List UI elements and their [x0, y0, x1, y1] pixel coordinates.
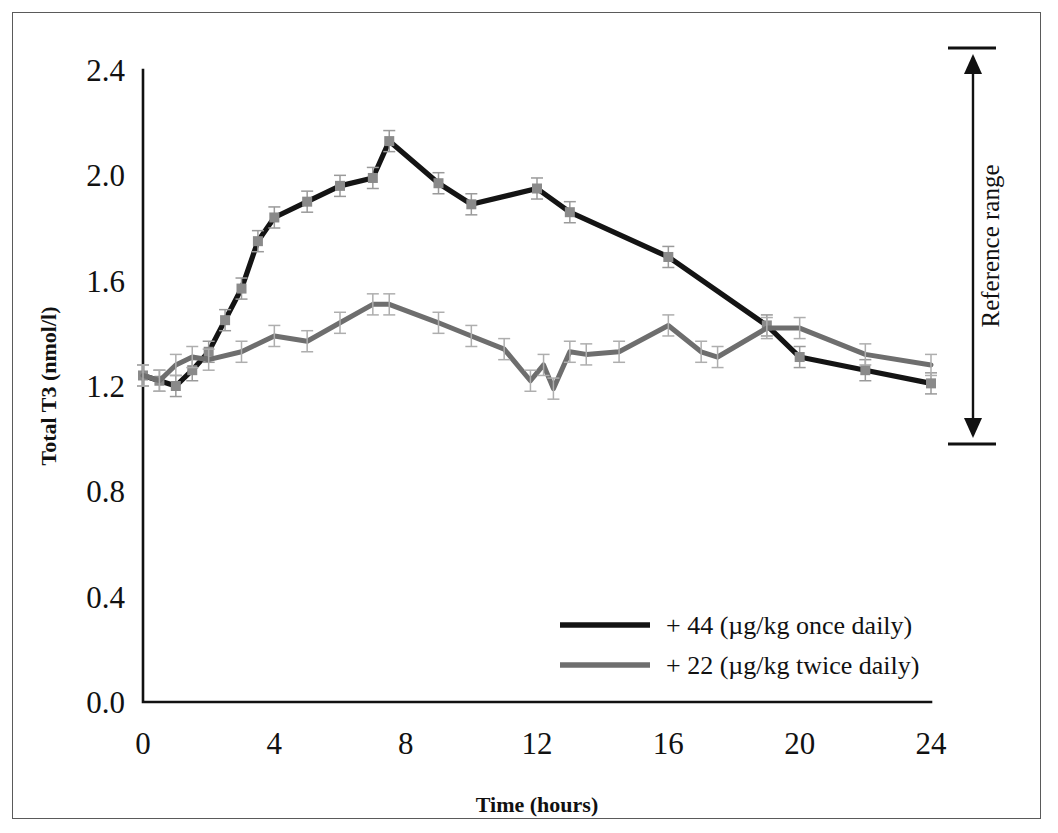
series-44-once-daily-marker: [384, 136, 394, 146]
series-44-once-daily-marker: [663, 252, 673, 262]
series-22-twice-daily: [137, 294, 937, 399]
y-tick-label-1.2: 1.2: [86, 369, 125, 404]
chart-legend: + 44 (µg/kg once daily)+ 22 (µg/kg twice…: [560, 611, 919, 680]
reference-range-label: Reference range: [977, 164, 1004, 327]
legend-label-1: + 44 (µg/kg once daily): [666, 611, 912, 640]
line-chart: 0.00.40.81.21.62.02.404812162024Time (ho…: [0, 0, 1058, 833]
series-44-once-daily-marker: [368, 173, 378, 183]
series-44-once-daily-marker: [220, 315, 230, 325]
series-44-once-daily-marker: [237, 284, 247, 294]
x-tick-label-16: 16: [653, 726, 684, 761]
y-tick-label-0.4: 0.4: [86, 580, 125, 615]
legend-label-2: + 22 (µg/kg twice daily): [666, 651, 919, 680]
plot-layer: 0.00.40.81.21.62.02.404812162024Time (ho…: [36, 48, 1004, 817]
series-44-once-daily-marker: [466, 199, 476, 209]
series-44-once-daily-marker: [253, 236, 263, 246]
reference-range-annotation: Reference range: [948, 48, 1004, 444]
x-axis-title: Time (hours): [476, 792, 598, 817]
figure-root: 0.00.40.81.21.62.02.404812162024Time (ho…: [0, 0, 1058, 833]
series-44-once-daily-marker: [532, 184, 542, 194]
x-tick-label-12: 12: [522, 726, 553, 761]
series-44-once-daily-marker: [926, 378, 936, 388]
y-axis-title: Total T3 (nmol/l): [36, 307, 61, 466]
y-tick-label-0.8: 0.8: [86, 474, 125, 509]
series-44-once-daily-marker: [860, 365, 870, 375]
series-44-once-daily-marker: [565, 207, 575, 217]
y-tick-label-2.0: 2.0: [86, 158, 125, 193]
x-tick-label-24: 24: [916, 726, 948, 761]
axis-lines: [143, 70, 931, 702]
x-tick-label-4: 4: [267, 726, 283, 761]
series-22-twice-daily-line: [143, 304, 931, 388]
series-44-once-daily-marker: [335, 181, 345, 191]
series-44-once-daily-marker: [302, 197, 312, 207]
series-44-once-daily: [137, 131, 937, 397]
x-tick-label-8: 8: [398, 726, 414, 761]
y-tick-label-0.0: 0.0: [86, 685, 125, 720]
y-tick-label-2.4: 2.4: [86, 53, 125, 88]
y-tick-label-1.6: 1.6: [86, 264, 125, 299]
series-44-once-daily-marker: [269, 212, 279, 222]
x-tick-label-0: 0: [135, 726, 151, 761]
reference-range-arrowhead-up: [964, 54, 982, 74]
reference-range-arrowhead-down: [964, 418, 982, 438]
series-44-once-daily-marker: [171, 381, 181, 391]
series-44-once-daily-marker: [795, 352, 805, 362]
x-tick-label-20: 20: [784, 726, 815, 761]
series-44-once-daily-marker: [434, 178, 444, 188]
